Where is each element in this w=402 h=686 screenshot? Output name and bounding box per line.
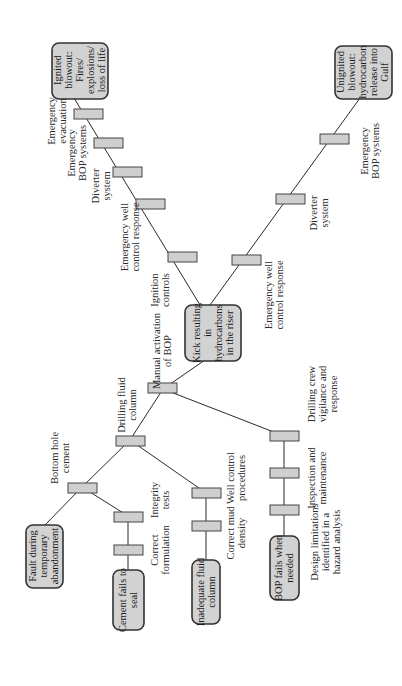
barrier-ignition-controls xyxy=(168,252,197,262)
barrier-text: maintenance xyxy=(317,451,328,504)
barrier-text: column xyxy=(127,389,138,421)
box-text: hydrocarbons xyxy=(213,304,224,361)
barrier-text: Diverter xyxy=(308,195,319,230)
barrier-text: Well control xyxy=(225,452,236,504)
barrier-text: response xyxy=(328,375,339,412)
barrier-text: Diverter xyxy=(90,168,101,203)
box-text: needed xyxy=(284,552,295,582)
box-text: Unignited xyxy=(335,50,346,93)
box-text: explosions/ xyxy=(85,46,96,94)
barrier-text: BOP systems xyxy=(370,123,381,179)
barrier-label-diverter-unignited: Diverter system xyxy=(308,195,330,230)
box-text: release into xyxy=(368,48,379,96)
barrier-label-drilling-fluid: Drilling fluid column xyxy=(116,376,138,432)
barrier-text: Emergency xyxy=(66,128,77,176)
barrier-label-correct-mud-density: Correct mud density xyxy=(225,506,247,560)
barrier-text: Ignition xyxy=(149,273,160,307)
threat-label-fault: Fault during temporary abandonment xyxy=(27,528,60,585)
barrier-integrity-tests xyxy=(114,512,143,522)
barrier-emergency-bop-systems-ignited xyxy=(94,138,123,148)
barrier-text: Design limitations xyxy=(309,503,320,580)
barrier-text: controls xyxy=(160,273,171,307)
barrier-label-emergency-evacuation: Emergency evacuation xyxy=(46,96,68,144)
barrier-text: Drilling fluid xyxy=(116,376,127,432)
barrier-text: tests xyxy=(160,491,171,510)
barrier-text: control response xyxy=(274,260,285,329)
barrier-label-ewcr-ignited: Emergency well control response xyxy=(119,202,141,271)
barrier-text: Emergency well xyxy=(119,203,130,271)
barrier-label-emergency-bop-unignited: Emergency BOP systems xyxy=(359,123,381,179)
barrier-diverter-system-unignited xyxy=(276,194,305,204)
box-text: in the riser xyxy=(224,310,235,355)
barrier-inspection-maintenance xyxy=(270,468,299,478)
barrier-text: Emergency xyxy=(359,126,370,174)
box-text: Fires/ xyxy=(74,58,85,82)
box-text: Gulf xyxy=(379,62,390,82)
box-text: hydrocarbon xyxy=(357,45,368,99)
barrier-label-inspection: Inspection and maintenance xyxy=(306,446,328,508)
barrier-text: procedures xyxy=(236,455,247,501)
box-text: column xyxy=(206,576,217,608)
barrier-diverter-system-ignited xyxy=(113,167,142,177)
barrier-text: Inspection and xyxy=(306,446,317,508)
barrier-correct-mud-density xyxy=(192,521,221,531)
barrier-design-limitations xyxy=(270,505,299,515)
barrier-emergency-well-control-unignited xyxy=(232,255,261,265)
barrier-text: Bottom hole xyxy=(49,432,60,485)
barrier-text: hazard analysis xyxy=(331,510,342,574)
box-text: BOP fails when xyxy=(273,534,284,601)
barrier-text: Emergency well xyxy=(263,261,274,329)
barrier-well-control-procedures xyxy=(192,488,221,498)
box-text: blowout: xyxy=(63,51,74,88)
barrier-label-diverter-ignited: Diverter system xyxy=(90,168,112,203)
barrier-correct-formulation xyxy=(114,545,143,555)
box-text: Ignited xyxy=(52,54,63,84)
barrier-text: formulation xyxy=(160,524,171,574)
box-text: loss of life xyxy=(96,47,107,92)
barrier-text: density xyxy=(236,517,247,548)
bow-tie-diagram: Ignited blowout: Fires/ explosions/ loss… xyxy=(0,0,402,686)
barrier-text: Drilling crew xyxy=(306,365,317,422)
barrier-label-correct-formulation: Correct formulation xyxy=(149,524,171,574)
box-text: Cement fails to xyxy=(117,568,128,632)
box-text: Inadequate fluid xyxy=(195,557,206,626)
barrier-text: BOP systems xyxy=(77,125,88,181)
barrier-label-integrity-tests: Integrity tests xyxy=(149,481,171,518)
barrier-label-design-limitations: Design limitations identified in a hazar… xyxy=(309,503,342,580)
box-text: abandonment xyxy=(49,528,60,585)
barrier-text: vigilance and xyxy=(317,365,328,422)
barrier-text: identified in a xyxy=(320,513,331,572)
barrier-label-drilling-crew: Drilling crew vigilance and response xyxy=(306,365,339,422)
box-text: temporary xyxy=(38,534,49,578)
barrier-text: Emergency xyxy=(46,96,57,144)
barrier-text: Manual activation xyxy=(151,312,162,389)
barrier-label-ignition-controls: Ignition controls xyxy=(149,273,171,307)
barrier-label-bottom-hole-cement: Bottom hole cement xyxy=(49,432,71,485)
barrier-bottom-hole-cement xyxy=(68,483,97,493)
barrier-label-ewcr-unignited: Emergency well control response xyxy=(263,260,285,329)
barrier-text: system xyxy=(319,198,330,227)
barrier-drilling-crew-vigilance xyxy=(270,431,299,441)
box-text: Kick resulting xyxy=(191,302,202,363)
barrier-text: of BOP xyxy=(162,335,173,367)
barrier-label-emergency-bop-ignited: Emergency BOP systems xyxy=(66,125,88,181)
barrier-emergency-bop-systems-unignited xyxy=(320,134,349,144)
box-text: seal xyxy=(128,592,139,608)
barrier-text: Correct mud xyxy=(225,506,236,560)
barrier-label-well-control-procedures: Well control procedures xyxy=(225,452,247,504)
barrier-emergency-evacuation xyxy=(74,109,103,119)
box-text: in xyxy=(202,328,213,337)
barrier-label-manual-activation: Manual activation of BOP xyxy=(151,312,173,389)
barrier-drilling-fluid-column xyxy=(116,436,145,446)
barrier-text: system xyxy=(101,171,112,200)
box-text: blowout: xyxy=(346,53,357,90)
top-event-label: Kick resulting in hydrocarbons in the ri… xyxy=(191,302,235,363)
barrier-text: Correct xyxy=(149,534,160,566)
barrier-text: control response xyxy=(130,202,141,271)
barrier-text: cement xyxy=(60,443,71,473)
box-text: Fault during xyxy=(27,529,38,581)
barrier-text: Integrity xyxy=(149,481,160,518)
